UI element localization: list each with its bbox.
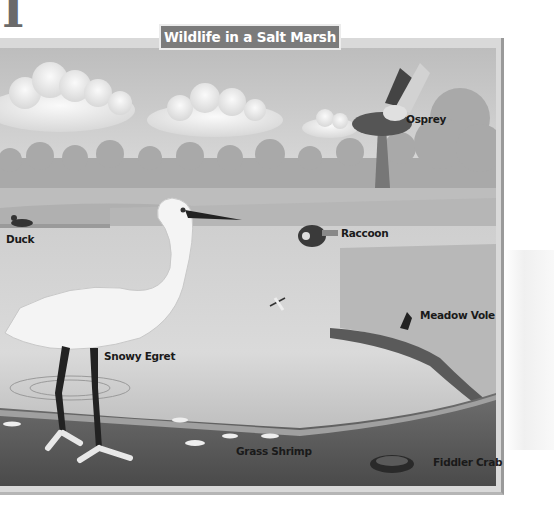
label-meadow-vole: Meadow Vole — [420, 309, 495, 321]
fiddler-crab-figure — [370, 455, 414, 473]
page-background-fade — [504, 250, 554, 450]
page-corner-letter: I — [2, 0, 24, 34]
label-duck: Duck — [6, 233, 34, 245]
label-raccoon: Raccoon — [341, 227, 388, 239]
label-grass-shrimp: Grass Shrimp — [236, 445, 312, 457]
label-fiddler-crab: Fiddler Crab — [433, 456, 502, 468]
label-snowy-egret: Snowy Egret — [104, 350, 175, 362]
figure-title: Wildlife in a Salt Marsh — [159, 24, 341, 50]
label-osprey: Osprey — [406, 113, 446, 125]
